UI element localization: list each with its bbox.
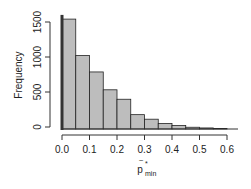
histogram-bar xyxy=(172,126,186,130)
histogram-bar xyxy=(131,115,145,129)
histogram-bar xyxy=(62,19,76,129)
histogram-chart: 050010001500 0.00.10.20.30.40.50.6 Frequ… xyxy=(0,0,251,189)
x-tick-label: 0.6 xyxy=(220,144,234,155)
svg-text:p: p xyxy=(137,164,143,175)
y-tick-label: 1000 xyxy=(32,45,43,68)
y-tick-label: 500 xyxy=(32,83,43,100)
histogram-bar xyxy=(117,99,131,129)
y-ticks: 050010001500 xyxy=(32,10,50,129)
histogram-bar xyxy=(158,123,172,129)
svg-text:min: min xyxy=(145,170,156,177)
x-tick-label: 0.5 xyxy=(193,144,207,155)
x-ticks: 0.00.10.20.30.40.50.6 xyxy=(55,135,234,155)
histogram-bar xyxy=(90,72,104,129)
x-tick-label: 0.0 xyxy=(55,144,69,155)
x-tick-label: 0.4 xyxy=(165,144,179,155)
x-tick-label: 0.2 xyxy=(110,144,124,155)
histogram-bar xyxy=(145,119,159,129)
x-tick-label: 0.3 xyxy=(138,144,152,155)
histogram-bar xyxy=(103,90,117,129)
y-axis-label: Frequency xyxy=(13,51,24,98)
svg-text:*: * xyxy=(145,160,148,167)
histogram-bar xyxy=(76,56,90,130)
y-tick-label: 1500 xyxy=(32,10,43,33)
bars-group xyxy=(62,19,227,129)
y-tick-label: 0 xyxy=(32,124,43,130)
svg-text:~: ~ xyxy=(139,156,144,165)
x-tick-label: 0.1 xyxy=(83,144,97,155)
x-axis-label: p ~ * min xyxy=(137,156,156,177)
